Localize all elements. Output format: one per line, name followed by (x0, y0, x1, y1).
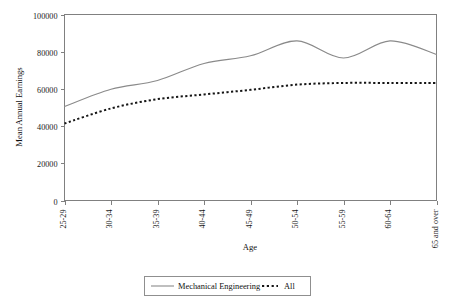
x-tick-label-30-34: 30-34 (105, 210, 114, 229)
x-tick-label-25-29: 25-29 (59, 210, 68, 229)
y-axis-tick-labels: 020000400006000080000100000 (33, 12, 58, 207)
legend-label-mechanical-engineering: Mechanical Engineering (178, 282, 261, 291)
y-tick-label-100000: 100000 (33, 12, 58, 21)
x-axis-title: Age (243, 242, 258, 252)
plot-frame (65, 15, 437, 201)
x-tick-label-50-54: 50-54 (291, 210, 300, 229)
y-tick-label-60000: 60000 (37, 86, 57, 95)
x-tick-label-35-39: 35-39 (152, 210, 161, 229)
y-tick-label-0: 0 (53, 198, 57, 207)
earnings-by-age-line-chart: 020000400006000080000100000 25-2930-3435… (0, 0, 453, 307)
x-tick-label-65-and-over: 65 and over (431, 209, 440, 248)
y-axis-ticks (61, 16, 65, 202)
x-tick-label-40-44: 40-44 (198, 210, 207, 229)
chart-legend: Mechanical Engineering All (145, 277, 311, 296)
data-series-layer (65, 41, 437, 124)
x-axis-ticks (66, 201, 438, 205)
series-line-all (65, 83, 437, 124)
plot-border (65, 15, 437, 201)
y-axis-title: Mean Annual Earnings (14, 67, 24, 147)
y-tick-label-40000: 40000 (37, 123, 57, 132)
series-line-mechanical-engineering (65, 41, 437, 107)
legend-label-all: All (284, 282, 295, 291)
y-tick-label-80000: 80000 (37, 49, 57, 58)
x-tick-label-55-59: 55-59 (338, 210, 347, 229)
y-tick-label-20000: 20000 (37, 160, 57, 169)
x-tick-label-45-49: 45-49 (245, 210, 254, 229)
x-tick-label-60-64: 60-64 (384, 210, 393, 229)
chart-container: 020000400006000080000100000 25-2930-3435… (0, 0, 453, 307)
